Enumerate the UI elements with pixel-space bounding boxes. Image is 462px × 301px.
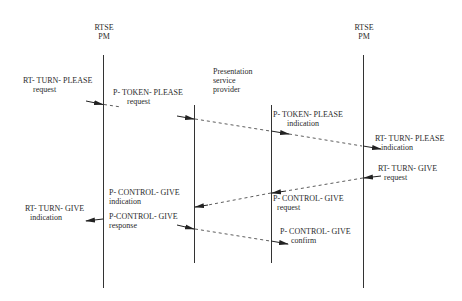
dashed-token-please-transfer [195,119,270,131]
message-kind: request [273,203,344,212]
participant-presentation-service-provider: Presentation service provider [213,67,253,94]
participant-right-line2: PM [348,32,380,41]
participant-right-rtse-pm: RTSE PM [348,23,380,41]
label-p-control-give-response: P-CONTROL- GIVE response [109,212,178,230]
label-rt-turn-give-indication: RT- TURN- GIVE indication [25,204,84,222]
label-p-control-give-confirm: P- CONTROL- GIVE confirm [280,227,351,245]
participant-left-rtse-pm: RTSE PM [88,23,120,41]
dashed-to-right-pm [289,134,362,146]
label-p-control-give-request: P- CONTROL- GIVE request [273,194,344,212]
label-rt-turn-please-indication: RT- TURN- PLEASE indication [375,134,444,152]
message-kind: indication [273,119,343,128]
participant-provider-line2: service [213,76,253,85]
message-kind: request [113,97,183,106]
label-p-token-please-indication: P- TOKEN- PLEASE indication [273,110,343,128]
participant-provider-line1: Presentation [213,67,253,76]
arrow-rt-turn-please-request [86,101,103,105]
message-kind: indication [375,143,444,152]
arrow-p-token-please-request [177,116,194,119]
message-kind: confirm [280,236,351,245]
arrow-rt-turn-give-indication [86,219,103,221]
arrow-p-control-give-response [177,225,194,229]
message-name: P- CONTROL- GIVE [280,227,351,236]
participant-right-line1: RTSE [348,23,380,32]
message-name: RT- TURN- PLEASE [23,76,92,85]
dashed-control-give-transfer [208,193,271,205]
dashed-control-give-confirm [195,229,270,241]
message-name: RT- TURN- GIVE [25,204,84,213]
message-name: P- TOKEN- PLEASE [273,110,343,119]
message-kind: indication [25,213,84,222]
dashed-control-give-request [286,178,363,191]
arrow-p-control-give-indication [195,205,208,207]
message-kind: request [23,85,92,94]
label-p-control-give-indication: P- CONTROL- GIVE indication [109,188,180,206]
message-name: RT- TURN- PLEASE [375,134,444,143]
message-name: P- CONTROL- GIVE [273,194,344,203]
participant-left-line1: RTSE [88,23,120,32]
message-name: P- TOKEN- PLEASE [113,88,183,97]
label-rt-turn-give-request: RT- TURN- GIVE request [378,164,437,182]
label-rt-turn-please-request: RT- TURN- PLEASE request [23,76,92,94]
arrow-p-control-give-request [272,191,286,193]
message-name: P- CONTROL- GIVE [109,188,180,197]
message-kind: request [378,173,437,182]
participant-provider-line3: provider [213,85,253,94]
message-kind: indication [109,197,180,206]
label-p-token-please-request: P- TOKEN- PLEASE request [113,88,183,106]
message-name: RT- TURN- GIVE [378,164,437,173]
arrow-p-token-please-indication [271,131,289,134]
message-name: P-CONTROL- GIVE [109,212,178,221]
participant-left-line2: PM [88,32,120,41]
message-kind: response [109,221,178,230]
